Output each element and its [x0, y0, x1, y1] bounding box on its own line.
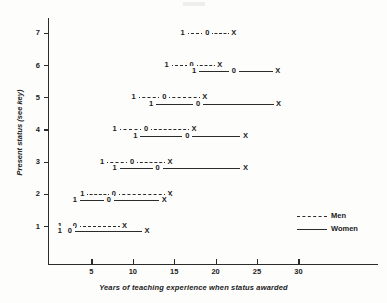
chart-legend: Men Women [297, 209, 381, 235]
series-segment [78, 200, 106, 201]
data-point-marker: 1 [110, 163, 120, 173]
data-point-marker: X [240, 163, 250, 173]
x-tick-label: 10 [123, 267, 143, 276]
legend-label-women: Women [331, 224, 358, 233]
series-segment [138, 136, 184, 137]
data-point-marker: X [274, 99, 284, 109]
data-point-marker: X [159, 195, 169, 205]
data-point-marker: X [229, 28, 239, 38]
x-tick [216, 259, 217, 264]
data-series-row: 10X [0, 66, 387, 76]
x-tick-label: 5 [81, 267, 101, 276]
x-tick-label: 30 [288, 267, 308, 276]
x-tick [298, 259, 299, 264]
series-segment [190, 136, 242, 137]
series-segment [201, 104, 275, 105]
series-segment [73, 231, 144, 232]
legend-item-men: Men [297, 209, 381, 222]
data-series-row: 10X [0, 163, 387, 173]
legend-label-men: Men [331, 211, 346, 220]
x-tick-label: 15 [164, 267, 184, 276]
x-tick-label: 20 [206, 267, 226, 276]
series-segment [154, 104, 195, 105]
data-point-marker: 0 [229, 66, 239, 76]
series-segment [161, 168, 243, 169]
data-point-marker: 1 [55, 226, 65, 236]
data-point-marker: 1 [189, 66, 199, 76]
data-point-marker: X [142, 226, 152, 236]
series-segment [112, 200, 162, 201]
data-series-row: 10X [0, 28, 387, 38]
data-point-marker: 0 [202, 28, 212, 38]
x-tick [91, 259, 92, 264]
series-segment [118, 168, 155, 169]
data-series-row: 10X [0, 99, 387, 109]
data-point-marker: 0 [153, 163, 163, 173]
data-point-marker: X [273, 66, 283, 76]
data-series-row: 10X [0, 131, 387, 141]
data-point-marker: 0 [193, 99, 203, 109]
x-tick [133, 259, 134, 264]
x-axis-title: Years of teaching experience when status… [0, 283, 387, 292]
data-point-marker: 0 [104, 195, 114, 205]
x-tick [257, 259, 258, 264]
series-segment [197, 71, 231, 72]
x-tick-label: 25 [247, 267, 267, 276]
scan-artifact [183, 2, 205, 6]
data-point-marker: 1 [130, 131, 140, 141]
chart-figure: 1234567 51015202530 Present status (see … [0, 0, 387, 303]
data-series-row: 10X [0, 195, 387, 205]
data-point-marker: 1 [146, 99, 156, 109]
solid-line-icon [297, 226, 327, 232]
x-tick [174, 259, 175, 264]
dashed-line-icon [297, 213, 327, 219]
data-point-marker: 1 [70, 195, 80, 205]
legend-item-women: Women [297, 222, 381, 235]
data-point-marker: 0 [182, 131, 192, 141]
x-axis-line [48, 264, 378, 265]
series-segment [210, 33, 231, 34]
series-segment [237, 71, 275, 72]
data-point-marker: 1 [178, 28, 188, 38]
data-point-marker: 0 [65, 226, 75, 236]
data-point-marker: X [240, 131, 250, 141]
